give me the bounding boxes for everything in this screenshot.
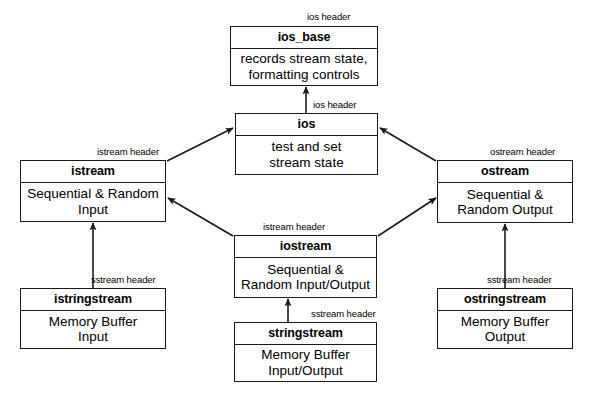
edge-iostream-to-istream: [168, 198, 233, 236]
class-node-title: istringstream: [21, 289, 165, 311]
class-node-body-line: Memory Buffer: [261, 347, 349, 362]
class-node-title: ios: [236, 114, 377, 136]
class-node-title: ios_base: [231, 27, 377, 49]
class-node-body: Memory BufferInput/Output: [235, 345, 376, 381]
label-iostream-istream-header: istream header: [263, 222, 325, 232]
class-node-body-line: Sequential &: [267, 262, 344, 277]
edge-istream-to-ios: [167, 128, 233, 161]
class-node-body-line: stream state: [269, 155, 343, 170]
class-node-body: records stream state,formatting controls: [231, 49, 377, 85]
class-node-body-line: Output: [485, 329, 526, 344]
label-ios-header-mid: ios header: [313, 100, 356, 110]
class-node-body: Memory BufferInput: [21, 311, 165, 348]
label-ios-header-top: ios header: [307, 12, 350, 22]
class-node-body: test and setstream state: [236, 136, 377, 174]
class-node-body-line: Sequential &: [467, 187, 544, 202]
class-node-istringstream[interactable]: istringstreamMemory BufferInput: [20, 288, 166, 349]
label-istream-header: istream header: [97, 147, 159, 157]
label-ostream-header: ostream header: [490, 147, 555, 157]
edge-ostream-to-ios: [380, 128, 436, 161]
class-node-ostringstream[interactable]: ostringstreamMemory BufferOutput: [437, 288, 573, 349]
class-node-body: Memory BufferOutput: [438, 311, 572, 348]
class-node-body-line: records stream state,: [241, 51, 368, 66]
class-node-ios[interactable]: iostest and setstream state: [235, 113, 378, 175]
class-node-body-line: Memory Buffer: [49, 314, 137, 329]
class-node-title: iostream: [235, 236, 376, 258]
class-node-body-line: Input/Output: [268, 363, 342, 378]
class-node-body-line: Memory Buffer: [461, 314, 549, 329]
class-node-body-line: test and set: [272, 139, 342, 154]
class-node-body: Sequential &Random Input/Output: [235, 258, 376, 297]
class-node-stringstream[interactable]: stringstreamMemory BufferInput/Output: [234, 322, 377, 382]
class-node-title: ostream: [438, 161, 572, 183]
label-sstream-header-right: sstream header: [487, 275, 552, 285]
class-node-istream[interactable]: istreamSequential & RandomInput: [20, 160, 166, 222]
edge-iostream-to-ostream: [378, 198, 436, 236]
class-node-title: istream: [21, 161, 165, 183]
class-node-title: ostringstream: [438, 289, 572, 311]
class-hierarchy-diagram: ios_baserecords stream state,formatting …: [0, 0, 592, 401]
label-sstream-header-center: sstream header: [311, 309, 376, 319]
class-node-body-line: Input: [78, 202, 108, 217]
class-node-body: Sequential & RandomInput: [21, 183, 165, 221]
class-node-body-line: Input: [78, 329, 108, 344]
class-node-body-line: Random Output: [457, 202, 552, 217]
class-node-ios_base[interactable]: ios_baserecords stream state,formatting …: [230, 26, 378, 86]
class-node-title: stringstream: [235, 323, 376, 345]
class-node-body: Sequential &Random Output: [438, 183, 572, 222]
class-node-body-line: Sequential & Random: [27, 186, 158, 201]
class-node-ostream[interactable]: ostreamSequential &Random Output: [437, 160, 573, 223]
class-node-body-line: formatting controls: [248, 67, 359, 82]
class-node-body-line: Random Input/Output: [241, 277, 370, 292]
class-node-iostream[interactable]: iostreamSequential &Random Input/Output: [234, 235, 377, 298]
label-sstream-header-left: sstream header: [91, 275, 156, 285]
